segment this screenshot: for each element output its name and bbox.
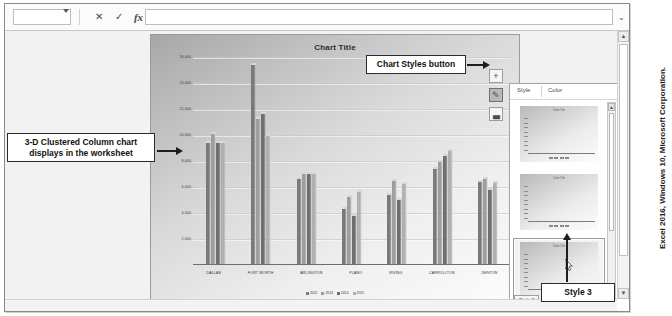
bar-top [493,181,498,183]
legend-swatch [306,292,309,295]
scroll-up-icon[interactable]: ▲ [618,31,629,42]
bar-top [266,134,271,136]
bar[interactable] [448,151,453,265]
formula-bar-divider [79,9,80,25]
legend-item[interactable]: 2012 [306,291,318,295]
thumbnail-title: Chart Title [520,177,598,180]
bar-top [221,141,226,143]
x-axis-tick-label: PLANO [349,271,362,281]
thumbnail-axis [528,221,595,222]
callout-chart-styles-button: Chart Styles button [366,55,466,74]
chart-styles-icon[interactable]: ✎ [489,88,503,102]
bar-face [493,183,498,265]
y-axis-tick-label: 8,000 [182,159,192,163]
bar-group[interactable] [297,57,317,265]
y-axis-tick-label: 16,000 [179,55,191,59]
bar-top [347,195,352,197]
thumbnail-title: Chart Title [520,245,598,248]
bar-top [402,182,407,184]
gallery-scroll-up-icon[interactable]: ▲ [608,103,615,111]
bar-face [266,136,271,265]
worksheet-canvas[interactable]: Chart Title 2,0004,0006,0008,00010,00012… [5,31,617,299]
bar[interactable] [221,143,226,265]
bar-group[interactable] [387,57,407,265]
enter-icon[interactable]: ✓ [109,8,128,26]
vertical-scrollbar[interactable]: ▲ ▼ [617,31,629,299]
gallery-thumbnail-style-2[interactable]: Chart Title [513,170,605,234]
callout-arrow-1 [157,150,177,152]
thumbnail-bars [528,186,595,222]
bar-group[interactable] [433,57,453,265]
bar-group[interactable] [206,57,226,265]
legend-swatch [353,292,356,295]
callout-chart-in-worksheet: 3-D Clustered Column chart displays in t… [7,133,155,162]
x-axis-tick-label: DENTON [482,271,498,281]
chart-title[interactable]: Chart Title [151,43,519,52]
legend-item[interactable]: 2013 [321,291,333,295]
screenshot-root: ✕ ✓ fx ⌄ Chart Title 2,0004,0006,0008,00… [0,0,672,316]
y-axis-tick-label: 2,000 [182,237,192,241]
scroll-down-icon[interactable]: ▼ [618,288,629,299]
thumbnail-bars [528,118,595,154]
x-axis-labels: DALLASFORT WORTHARLINGTONPLANOIRVINGCARR… [193,271,511,281]
tab-color[interactable]: Color [548,87,562,93]
chart-elements-icon[interactable]: + [489,69,503,83]
gallery-thumbnail-style-1[interactable]: Chart Title [513,102,605,166]
image-credit: Excel 2016, Windows 10, Microsoft Corpor… [654,0,670,316]
callout-arrow-2 [467,64,484,66]
gallery-thumbnail-list[interactable]: Chart TitleChart TitleChart Title [513,102,605,299]
y-axis-tick-label: 14,000 [179,81,191,85]
plot-area[interactable] [193,57,511,265]
tab-divider [541,86,542,97]
callout-style-three: Style 3 [541,283,615,302]
gallery-tabs: Style Color [510,84,617,100]
bar-top [251,63,256,65]
bar-group[interactable] [342,57,362,265]
chart-styles-gallery[interactable]: Style Color Chart TitleChart TitleChart … [509,83,617,299]
x-axis-tick-label: IRVING [389,271,402,281]
bar-face [402,184,407,265]
y-axis-tick-label: 4,000 [182,211,192,215]
bar[interactable] [357,192,362,265]
bar-face [221,143,226,265]
legend-item[interactable]: 2015 [353,291,365,295]
name-box-dropdown-icon[interactable] [63,9,69,13]
thumbnail-axis [528,153,595,154]
bar[interactable] [402,184,407,265]
x-axis-tick-label: ARLINGTON [300,271,322,281]
vertical-scroll-thumb[interactable] [619,44,628,256]
x-axis-tick-label: CARROLLTON [429,271,455,281]
legend-item[interactable]: 2014 [337,291,349,295]
bar-top [211,132,216,134]
thumbnail-preview: Chart Title [520,106,598,162]
bar-top [261,112,266,114]
chart-side-buttons: +✎▃ [489,69,505,126]
bar-top [357,190,362,192]
formula-input[interactable] [145,9,613,25]
bar[interactable] [266,136,271,265]
legend-label: 2013 [325,291,333,295]
y-axis-tick-label: 12,000 [179,107,191,111]
gallery-scroll-thumb[interactable] [609,113,614,231]
x-axis-line [193,264,511,265]
chart-object[interactable]: Chart Title 2,0004,0006,0008,00010,00012… [150,34,520,299]
legend-swatch [337,292,340,295]
expand-formula-bar-icon[interactable]: ⌄ [617,13,626,22]
credit-text: Excel 2016, Windows 10, Microsoft Corpor… [658,67,667,249]
gallery-scrollbar[interactable]: ▲ ▼ [607,102,616,299]
chart-filters-icon[interactable]: ▃ [489,107,503,121]
horizontal-scrollbar[interactable] [5,299,617,311]
y-axis-tick-label: 10,000 [179,133,191,137]
thumbnail-title: Chart Title [520,109,598,112]
bar[interactable] [493,183,498,265]
cancel-icon[interactable]: ✕ [89,8,108,26]
chart-legend[interactable]: 2012201320142015 [151,289,519,297]
legend-label: 2012 [310,291,318,295]
bar[interactable] [312,174,317,265]
thumbnail-preview: Chart Title [520,174,598,230]
tab-style[interactable]: Style [517,87,530,93]
bar-top [448,149,453,151]
bar-group[interactable] [251,57,271,265]
legend-swatch [321,292,324,295]
x-axis-tick-label: DALLAS [206,271,221,281]
